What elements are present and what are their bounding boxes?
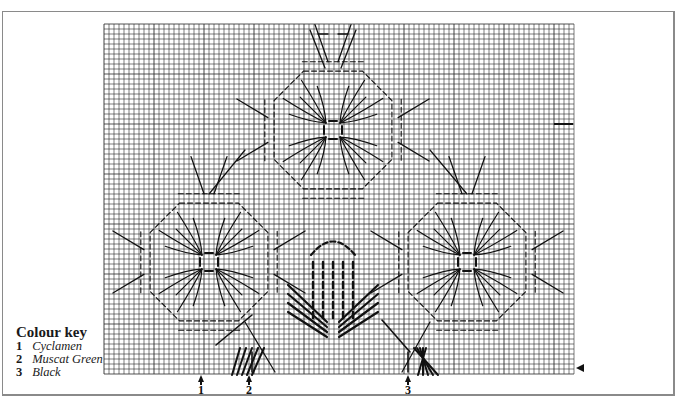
key-number: 3	[16, 366, 29, 379]
key-colour-name: Muscat Green	[32, 352, 103, 366]
key-colour-name: Cyclamen	[32, 339, 82, 353]
up-arrow-icon	[405, 375, 411, 382]
column-marker-label: 2	[246, 383, 252, 397]
up-arrow-icon	[198, 375, 204, 382]
column-marker-label: 3	[405, 383, 411, 397]
column-marker-2: 2	[242, 375, 256, 396]
key-colour-name: Black	[32, 365, 60, 379]
colour-key-entry: 3 Black	[16, 366, 103, 379]
colour-key-title: Colour key	[16, 326, 103, 339]
up-arrow-icon	[246, 375, 252, 382]
column-marker-3: 3	[401, 375, 415, 396]
colour-key: Colour key 1 Cyclamen 2 Muscat Green 3 B…	[16, 326, 103, 379]
column-marker-label: 1	[198, 383, 204, 397]
column-marker-1: 1	[194, 375, 208, 396]
stitch-motifs	[113, 25, 563, 375]
left-arrow-icon	[576, 364, 584, 372]
